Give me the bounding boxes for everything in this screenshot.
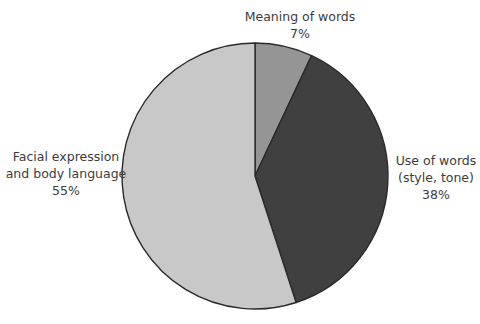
label-use-of-words: Use of words (style, tone) 38% [396,152,477,203]
label-meaning-of-words: Meaning of words 7% [245,8,356,42]
slice-label-line2: and body language [6,165,127,182]
slice-label: Facial expression [6,148,127,165]
slice-value: 55% [6,182,127,199]
pie-slices [122,43,388,309]
slice-label: Meaning of words [245,8,356,25]
slice-value: 38% [396,186,477,203]
label-facial-expression: Facial expression and body language 55% [6,148,127,199]
slice-label: Use of words [396,152,477,169]
slice-label-line2: (style, tone) [396,169,477,186]
slice-value: 7% [245,25,356,42]
